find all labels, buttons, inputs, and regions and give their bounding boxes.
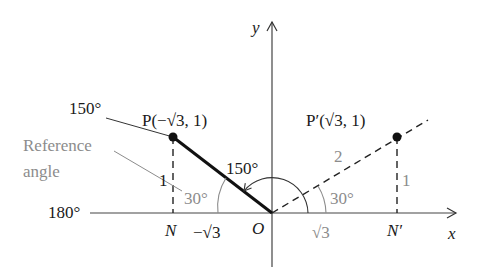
point-P-prime-label: P′(√3, 1) bbox=[306, 111, 365, 130]
arc-angle-label: 150° bbox=[226, 159, 258, 178]
terminal-angle-label: 150° bbox=[69, 99, 101, 118]
height-left-label: 1 bbox=[159, 171, 168, 190]
x-axis-label: x bbox=[447, 224, 456, 243]
reference-angle-label-line1: Reference bbox=[23, 136, 92, 155]
point-P-prime bbox=[393, 133, 402, 142]
height-right-label: 1 bbox=[402, 171, 411, 190]
reference-arc-right bbox=[318, 186, 326, 213]
reference-angle-leader bbox=[114, 151, 182, 191]
foot-N-label: N bbox=[164, 221, 178, 240]
reference-angle-right-label: 30° bbox=[330, 189, 354, 208]
point-P bbox=[169, 133, 178, 142]
reference-angle-left-label: 30° bbox=[184, 189, 208, 208]
reference-angle-diagram: y x O 150° P(−√3, 1) P′(√3, 1) Reference… bbox=[0, 0, 486, 273]
point-P-label: P(−√3, 1) bbox=[142, 111, 207, 130]
straight-angle-label: 180° bbox=[48, 203, 80, 222]
angle-150-arc bbox=[244, 178, 308, 213]
origin-label: O bbox=[252, 219, 264, 238]
hypotenuse-label: 2 bbox=[334, 147, 343, 166]
reference-angle-label-line2: angle bbox=[23, 162, 60, 181]
reference-arc-left bbox=[218, 178, 226, 213]
base-right-label: √3 bbox=[312, 223, 330, 242]
base-left-label: −√3 bbox=[193, 223, 220, 242]
foot-N-prime-label: N′ bbox=[386, 221, 402, 240]
y-axis-label: y bbox=[250, 18, 260, 37]
